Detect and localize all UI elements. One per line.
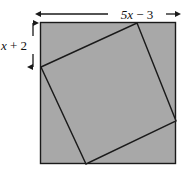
height-dimension-group: x + 2 x + 2 [0,23,33,67]
geometry-figure: 5x − 3 5x − 3 x + 2 x + 2 [0,0,183,169]
figure-canvas: 5x − 3 5x − 3 x + 2 x + 2 [0,0,183,169]
width-dimension-group: 5x − 3 5x − 3 [41,7,175,22]
